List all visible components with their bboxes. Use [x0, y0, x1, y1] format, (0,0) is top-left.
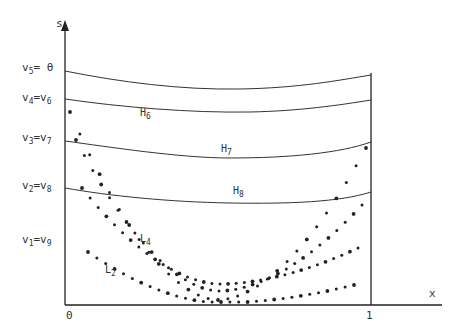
dot — [335, 196, 339, 200]
dot — [317, 291, 320, 294]
level-label-value: θ — [47, 61, 54, 74]
level-label-var: v — [22, 179, 29, 192]
dot — [74, 138, 78, 142]
dot — [187, 288, 191, 292]
level-curve-h6 — [65, 99, 371, 112]
level-label-sub: 8 — [47, 185, 52, 194]
curve-label-sub: 2 — [111, 269, 116, 278]
level-label-value: v — [40, 179, 47, 192]
level-label-v2: v2=v8 — [22, 180, 52, 194]
dot — [184, 297, 187, 300]
level-label-v4: v4=v6 — [22, 92, 52, 106]
dot — [121, 231, 124, 234]
dot — [193, 298, 197, 302]
dot — [352, 283, 356, 287]
level-label-var: v — [22, 61, 29, 74]
curve-label-h8: H8 — [233, 186, 244, 199]
dot — [210, 282, 213, 285]
dot — [159, 259, 162, 262]
dot — [237, 301, 240, 304]
dot — [98, 172, 102, 176]
dot — [235, 282, 238, 285]
dot — [80, 186, 84, 190]
level-label-sub: 9 — [47, 239, 52, 248]
dot — [251, 279, 255, 283]
curve-label-l2: L2 — [105, 265, 116, 278]
dot — [292, 271, 295, 274]
dot — [129, 238, 133, 242]
dot — [194, 278, 197, 281]
dot — [105, 214, 109, 218]
dot — [256, 284, 259, 287]
y-axis-label: s — [56, 18, 63, 29]
dot — [295, 250, 298, 253]
dot — [209, 289, 212, 292]
dot — [178, 272, 182, 276]
dot — [352, 212, 356, 216]
curve-label-sub: 4 — [146, 238, 151, 247]
dot — [255, 300, 258, 303]
dot — [202, 300, 205, 303]
curve-label-h6: H6 — [140, 108, 151, 121]
curve-label-sub: 7 — [227, 148, 232, 157]
dot — [211, 301, 214, 304]
dotted-curve-l2 — [86, 250, 356, 304]
dot — [108, 191, 111, 194]
dot — [348, 250, 352, 254]
level-label-value: v — [40, 91, 47, 104]
dot — [218, 290, 221, 293]
level-label-value: v — [40, 131, 47, 144]
dot — [315, 225, 318, 228]
dot — [282, 297, 285, 300]
dot — [332, 257, 335, 260]
dot — [364, 146, 368, 150]
dot — [301, 256, 305, 260]
level-curve-top — [65, 71, 371, 89]
dot — [127, 223, 131, 227]
dot — [305, 238, 309, 242]
dot — [197, 294, 200, 297]
level-curves — [65, 71, 371, 203]
dot — [251, 283, 255, 287]
dot — [226, 297, 229, 300]
dot — [184, 278, 187, 281]
x-tick-0: 0 — [66, 310, 73, 321]
dot — [207, 297, 210, 300]
dot — [327, 236, 331, 240]
axes — [65, 26, 442, 305]
dot — [335, 288, 338, 291]
dot — [316, 263, 319, 266]
dot — [200, 286, 204, 290]
dot — [267, 277, 270, 280]
dot — [361, 204, 364, 207]
dot — [150, 250, 154, 254]
dot — [345, 181, 348, 184]
plot-canvas — [0, 0, 467, 327]
dot — [192, 283, 195, 286]
diagram: s x 0 1 v5= θ v4=v6 v3=v7 v2=v8 v1=v9 H6… — [0, 0, 467, 327]
level-label-value: v — [40, 233, 47, 246]
dot — [95, 257, 98, 260]
dot — [290, 296, 293, 299]
dot — [344, 221, 347, 224]
dot — [234, 288, 237, 291]
dot — [308, 266, 311, 269]
dot — [83, 154, 86, 157]
dot — [175, 294, 178, 297]
dot — [117, 209, 120, 212]
dot — [177, 281, 180, 284]
dot — [166, 291, 170, 295]
dot — [344, 286, 347, 289]
dot — [299, 268, 303, 272]
dot — [299, 294, 303, 298]
dot — [68, 110, 72, 114]
dot — [272, 298, 276, 302]
dot — [318, 244, 321, 247]
dot — [167, 266, 170, 269]
dot — [167, 273, 170, 276]
dot — [78, 133, 81, 136]
x-axis-label: x — [429, 288, 436, 299]
dot — [275, 275, 279, 279]
dot — [113, 223, 116, 226]
dot — [131, 277, 134, 280]
